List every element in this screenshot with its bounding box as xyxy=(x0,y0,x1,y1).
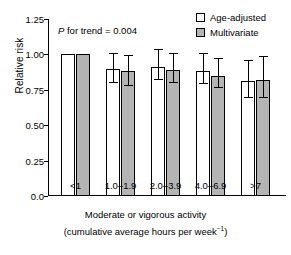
y-tick-mark xyxy=(44,196,48,197)
error-bar-line xyxy=(263,57,264,98)
p-symbol: P xyxy=(58,25,64,36)
error-bar-cap-lower xyxy=(214,87,223,88)
bar-age-adjusted xyxy=(241,81,255,196)
y-tick-mark xyxy=(44,90,48,91)
y-tick-label: 0.75 xyxy=(16,85,44,94)
error-bar-cap-lower xyxy=(124,85,133,86)
error-bar-line xyxy=(113,54,114,82)
error-bar-line xyxy=(128,56,129,86)
bar-age-adjusted xyxy=(196,71,210,196)
error-bar-cap-lower xyxy=(244,97,253,98)
plot-area xyxy=(48,19,286,196)
x-axis-title-line2-prefix: (cumulative average hours per week xyxy=(64,226,217,237)
legend-item-age-adjusted: Age-adjusted xyxy=(196,12,266,23)
bar-group xyxy=(239,19,272,196)
error-bar-cap-lower xyxy=(199,83,208,84)
white-square-icon xyxy=(196,13,205,22)
y-tick-label: 1.25 xyxy=(16,15,44,24)
error-bar-line xyxy=(218,59,219,89)
p-for-trend-annotation: P for trend = 0.004 xyxy=(58,25,137,36)
error-bar-cap-lower xyxy=(259,97,268,98)
error-bar-cap-upper xyxy=(244,60,253,61)
y-tick-label: 1.00 xyxy=(16,50,44,59)
error-bar-cap-lower xyxy=(109,82,118,83)
error-bar-cap-upper xyxy=(214,58,223,59)
y-tick-label: 0.0 xyxy=(16,192,44,201)
y-tick-mark xyxy=(44,19,48,20)
error-bar-cap-upper xyxy=(259,56,268,57)
bar-multivariate xyxy=(166,70,180,196)
legend-item-multivariate: Multivariate xyxy=(196,27,266,38)
x-axis-title-line2-suffix: ) xyxy=(224,226,227,237)
error-bar-cap-lower xyxy=(154,79,163,80)
bar-group xyxy=(59,19,92,196)
x-axis-title: Moderate or vigorous activity (cumulativ… xyxy=(0,208,291,238)
bar-age-adjusted xyxy=(151,67,165,196)
x-tick-label: 2.0–3.9 xyxy=(141,180,190,191)
bar-age-adjusted xyxy=(106,69,120,196)
error-bar-line xyxy=(248,61,249,98)
error-bar-cap-upper xyxy=(109,53,118,54)
error-bar-cap-lower xyxy=(169,82,178,83)
x-axis-title-line1: Moderate or vigorous activity xyxy=(0,208,291,222)
error-bar-line xyxy=(203,54,204,84)
x-tick-label: <1 xyxy=(51,180,100,191)
y-tick-mark xyxy=(44,54,48,55)
error-bar-cap-upper xyxy=(124,55,133,56)
relative-risk-bar-chart: Relative risk 1.25 1.00 0.75 0.50 0.25 0… xyxy=(0,0,291,255)
y-axis-line xyxy=(48,19,49,196)
error-bar-cap-upper xyxy=(154,49,163,50)
bar-age-adjusted xyxy=(61,54,75,196)
bar-group xyxy=(194,19,227,196)
x-tick-label: 1.0–1.9 xyxy=(96,180,145,191)
error-bar-cap-upper xyxy=(199,53,208,54)
error-bar-line xyxy=(158,50,159,80)
bar-multivariate xyxy=(76,54,90,196)
error-bar-line xyxy=(173,54,174,82)
bar-group xyxy=(149,19,182,196)
gray-square-icon xyxy=(196,28,205,37)
y-tick-label: 0.50 xyxy=(16,121,44,130)
y-tick-mark xyxy=(44,161,48,162)
error-bar-cap-upper xyxy=(169,53,178,54)
y-tick-mark xyxy=(44,125,48,126)
bar-multivariate xyxy=(211,76,225,196)
legend-label: Age-adjusted xyxy=(210,12,266,23)
x-axis-title-line2: (cumulative average hours per week−1) xyxy=(0,222,291,239)
bar-group xyxy=(104,19,137,196)
x-tick-label: >7 xyxy=(231,180,280,191)
legend-label: Multivariate xyxy=(210,27,259,38)
x-tick-label: 4.0–6.9 xyxy=(186,180,235,191)
y-tick-label: 0.25 xyxy=(16,156,44,165)
bar-multivariate xyxy=(121,71,135,196)
legend: Age-adjusted Multivariate xyxy=(196,12,266,42)
